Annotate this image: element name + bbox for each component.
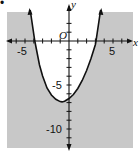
y-axis-label: y [70, 0, 76, 10]
x-tick-label-5: 5 [109, 45, 115, 57]
x-axis-label: x [132, 36, 138, 48]
y-tick-label-neg5: -5 [52, 79, 62, 91]
origin-label: O [59, 29, 67, 41]
curve-arrow-left-icon [28, 8, 33, 15]
inequality-graph: -5 5 x -5 -10 y O [0, 0, 140, 155]
y-tick-label-neg10: -10 [46, 123, 62, 135]
x-tick-label-neg5: -5 [17, 45, 27, 57]
plot-area [7, 8, 133, 148]
curve-arrow-right-icon [98, 8, 103, 15]
